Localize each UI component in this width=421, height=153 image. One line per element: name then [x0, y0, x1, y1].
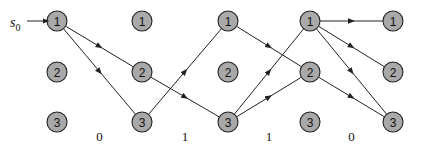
edge [316, 29, 386, 115]
state-node: 2 [218, 62, 238, 82]
edge [319, 77, 385, 117]
edge [148, 29, 221, 115]
state-node: 2 [132, 62, 152, 82]
edge [63, 29, 135, 115]
svg-text:3: 3 [139, 116, 146, 130]
state-node: 1 [383, 11, 403, 31]
svg-text:3: 3 [307, 116, 314, 130]
start-indicator: s0 [10, 15, 46, 33]
state-node: 3 [132, 112, 152, 132]
state-node: 2 [383, 62, 403, 82]
edge [319, 26, 385, 67]
edge [66, 26, 134, 67]
state-node: 1 [132, 11, 152, 31]
svg-text:1: 1 [225, 15, 232, 29]
edge [151, 77, 220, 117]
state-node: 3 [383, 112, 403, 132]
svg-text:2: 2 [307, 66, 314, 80]
stage-label: 1 [266, 129, 273, 144]
stage-label: 0 [348, 129, 355, 144]
nodes: 123123123123123 [47, 11, 403, 132]
svg-text:3: 3 [225, 116, 232, 130]
trellis-diagram: 123123123123123 0110 s0 [0, 0, 421, 153]
stage-label: 0 [96, 129, 103, 144]
start-label: s0 [10, 15, 20, 33]
state-node: 2 [47, 62, 67, 82]
state-node: 3 [47, 112, 67, 132]
svg-text:2: 2 [139, 66, 146, 80]
svg-text:1: 1 [139, 15, 146, 29]
state-node: 1 [300, 11, 320, 31]
state-node: 1 [47, 11, 67, 31]
edge [234, 29, 303, 114]
state-node: 3 [300, 112, 320, 132]
svg-text:1: 1 [390, 15, 397, 29]
svg-text:3: 3 [390, 116, 397, 130]
svg-text:2: 2 [390, 66, 397, 80]
svg-text:2: 2 [225, 66, 232, 80]
stage-label: 1 [182, 129, 189, 144]
svg-text:2: 2 [54, 66, 61, 80]
state-node: 3 [218, 112, 238, 132]
edge [236, 26, 301, 66]
svg-text:1: 1 [307, 15, 314, 29]
svg-text:1: 1 [54, 15, 61, 29]
state-node: 2 [300, 62, 320, 82]
edge [237, 77, 302, 117]
svg-text:3: 3 [54, 116, 61, 130]
state-node: 1 [218, 11, 238, 31]
